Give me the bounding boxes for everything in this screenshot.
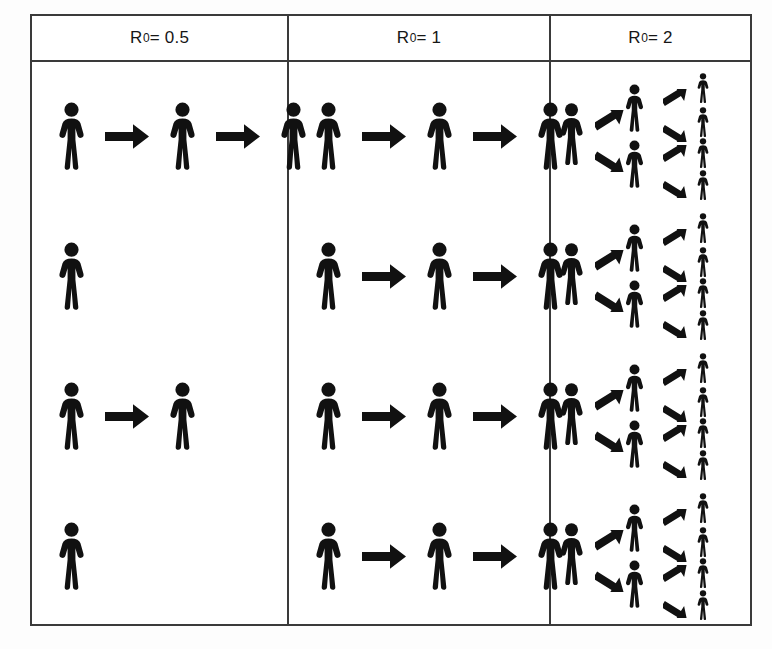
header-subscript: 0 [409, 31, 416, 45]
transmission-arrow-icon [663, 114, 691, 142]
infected-person-icon [426, 522, 453, 590]
infected-person-icon [559, 523, 584, 589]
header-value: = 1 [417, 28, 442, 48]
transmission-arrow-icon [663, 145, 691, 173]
transmission-arrow-icon [362, 542, 406, 571]
transmission-chain [289, 522, 564, 590]
transmission-arrow-icon [473, 402, 517, 431]
transmission-row [289, 66, 549, 206]
transmission-chain [32, 382, 196, 450]
infected-person-icon [58, 382, 85, 450]
transmission-chain [289, 102, 564, 170]
infected-person-icon [169, 102, 196, 170]
transmission-arrow-icon [663, 254, 691, 282]
header-row: R0 = 0.5 R0 = 1 R0 = 2 [32, 16, 750, 62]
transmission-arrow-icon [663, 310, 691, 338]
transmission-row [32, 486, 287, 626]
transmission-arrow-icon [663, 285, 691, 313]
infected-person-icon [697, 170, 709, 204]
header-value: = 0.5 [150, 28, 189, 48]
infected-person-icon [697, 73, 709, 107]
transmission-row [551, 346, 750, 486]
column-body-r0-0.5 [32, 62, 289, 624]
header-symbol: R [628, 28, 640, 48]
infected-person-icon [697, 387, 709, 421]
transmission-row [289, 486, 549, 626]
transmission-row [551, 486, 750, 626]
header-subscript: 0 [641, 31, 648, 45]
infected-person-icon [625, 420, 644, 472]
transmission-arrow-icon [663, 394, 691, 422]
infected-person-icon [625, 84, 644, 136]
transmission-arrow-icon [362, 402, 406, 431]
infected-person-icon [315, 102, 342, 170]
header-symbol: R [397, 28, 409, 48]
infected-person-icon [58, 522, 85, 590]
transmission-arrow-icon [473, 122, 517, 151]
column-body-r0-2 [551, 62, 750, 624]
infected-person-icon [559, 383, 584, 449]
infected-person-icon [697, 418, 709, 452]
column-body-r0-1 [289, 62, 551, 624]
infected-person-icon [426, 242, 453, 310]
column-header-r0-2: R0 = 2 [551, 16, 750, 60]
infected-person-icon [697, 138, 709, 172]
transmission-row [551, 206, 750, 346]
transmission-arrow-icon [663, 450, 691, 478]
transmission-arrow-icon [663, 509, 691, 537]
infected-person-icon [697, 493, 709, 527]
transmission-tree [551, 486, 750, 626]
transmission-row [551, 66, 750, 206]
transmission-arrow-icon [105, 122, 149, 151]
transmission-arrow-icon [362, 122, 406, 151]
transmission-row [32, 206, 287, 346]
column-header-r0-1: R0 = 1 [289, 16, 551, 60]
infected-person-icon [559, 103, 584, 169]
transmission-arrow-icon [663, 565, 691, 593]
figure-canvas: R0 = 0.5 R0 = 1 R0 = 2 [0, 0, 772, 649]
transmission-row [289, 346, 549, 486]
transmission-row [289, 206, 549, 346]
transmission-tree [551, 66, 750, 206]
infected-person-icon [697, 310, 709, 344]
transmission-chain [289, 382, 564, 450]
transmission-arrow-icon [663, 89, 691, 117]
infected-person-icon [697, 278, 709, 312]
infected-person-icon [315, 382, 342, 450]
transmission-tree [551, 206, 750, 346]
infected-person-icon [697, 450, 709, 484]
transmission-arrow-icon [663, 229, 691, 257]
transmission-arrow-icon [663, 534, 691, 562]
infected-person-icon [697, 353, 709, 387]
transmission-arrow-icon [105, 402, 149, 431]
transmission-arrow-icon [216, 122, 260, 151]
infected-person-icon [697, 527, 709, 561]
transmission-chain [289, 242, 564, 310]
infected-person-icon [697, 107, 709, 141]
header-value: = 2 [648, 28, 673, 48]
transmission-arrow-icon [473, 542, 517, 571]
infected-person-icon [315, 522, 342, 590]
infected-person-icon [625, 280, 644, 332]
transmission-arrow-icon [473, 262, 517, 291]
diagram-table-frame: R0 = 0.5 R0 = 1 R0 = 2 [30, 14, 752, 626]
transmission-arrow-icon [595, 138, 629, 172]
infected-person-icon [697, 213, 709, 247]
infected-person-icon [625, 224, 644, 276]
transmission-arrow-icon [663, 170, 691, 198]
column-header-r0-0.5: R0 = 0.5 [32, 16, 289, 60]
transmission-chain [32, 102, 307, 170]
header-subscript: 0 [142, 31, 149, 45]
transmission-arrow-icon [663, 590, 691, 618]
infected-person-icon [315, 242, 342, 310]
infected-person-icon [697, 558, 709, 592]
infected-person-icon [697, 247, 709, 281]
transmission-tree [551, 346, 750, 486]
infected-person-icon [625, 140, 644, 192]
infected-person-icon [58, 242, 85, 310]
infected-person-icon [559, 243, 584, 309]
transmission-arrow-icon [595, 418, 629, 452]
transmission-arrow-icon [595, 558, 629, 592]
transmission-arrow-icon [663, 425, 691, 453]
transmission-arrow-icon [362, 262, 406, 291]
